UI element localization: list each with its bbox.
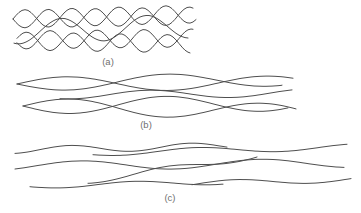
fiber-line bbox=[23, 99, 296, 117]
fiber-diagram-svg: (a) (b) (c) bbox=[0, 0, 361, 213]
fiber-line bbox=[13, 6, 196, 27]
fiber-group-a bbox=[13, 6, 196, 53]
fiber-group-b bbox=[17, 74, 296, 117]
fiber-line bbox=[17, 76, 293, 90]
fiber-line bbox=[15, 159, 344, 169]
group-b-label: (b) bbox=[140, 119, 152, 130]
fiber-group-c bbox=[15, 143, 351, 188]
fiber-line bbox=[14, 16, 188, 44]
fiber-line bbox=[17, 32, 190, 53]
fiber-line bbox=[60, 90, 292, 99]
group-a-label: (a) bbox=[102, 56, 114, 67]
fiber-line bbox=[17, 29, 193, 49]
group-c-label: (c) bbox=[164, 192, 175, 203]
fiber-line bbox=[17, 74, 282, 90]
fiber-crimp-diagram: (a) (b) (c) bbox=[0, 0, 361, 213]
fiber-line bbox=[192, 179, 351, 185]
fiber-line bbox=[15, 143, 227, 153]
